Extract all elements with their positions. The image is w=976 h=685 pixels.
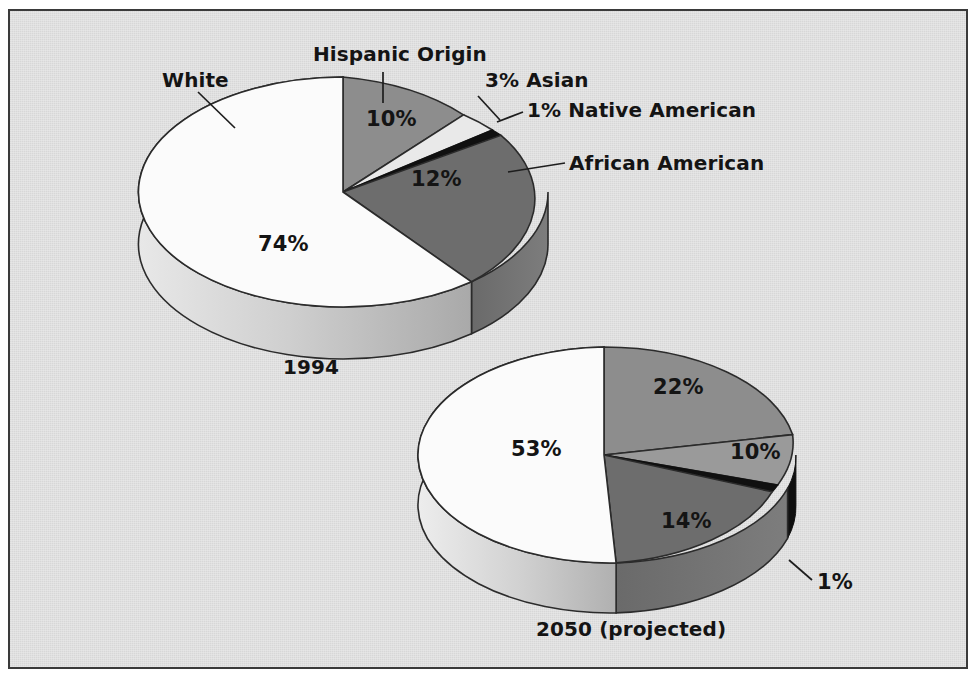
- value-1994-african: 12%: [411, 167, 462, 191]
- value-2050-african: 14%: [661, 509, 712, 533]
- value-1994-hispanic: 10%: [366, 107, 417, 131]
- leader-line-native-2050: [789, 560, 812, 580]
- value-1994-white: 74%: [258, 232, 309, 256]
- value-2050-white: 53%: [511, 437, 562, 461]
- pie-2050: [418, 347, 812, 613]
- callout-native-american: 1% Native American: [527, 98, 756, 122]
- figure-canvas: White Hispanic Origin 3% Asian 1% Native…: [0, 0, 976, 685]
- leader-line-asian: [478, 96, 500, 120]
- caption-2050: 2050 (projected): [536, 617, 726, 641]
- value-2050-asian: 10%: [730, 440, 781, 464]
- pie-1994: [138, 72, 565, 359]
- callout-asian: 3% Asian: [485, 68, 589, 92]
- callout-white: White: [162, 68, 229, 92]
- callout-african-american: African American: [569, 151, 764, 175]
- caption-1994: 1994: [283, 355, 339, 379]
- value-2050-hispanic: 22%: [653, 375, 704, 399]
- value-2050-native: 1%: [817, 570, 853, 594]
- callout-hispanic: Hispanic Origin: [313, 42, 487, 66]
- leader-line-native: [497, 112, 523, 122]
